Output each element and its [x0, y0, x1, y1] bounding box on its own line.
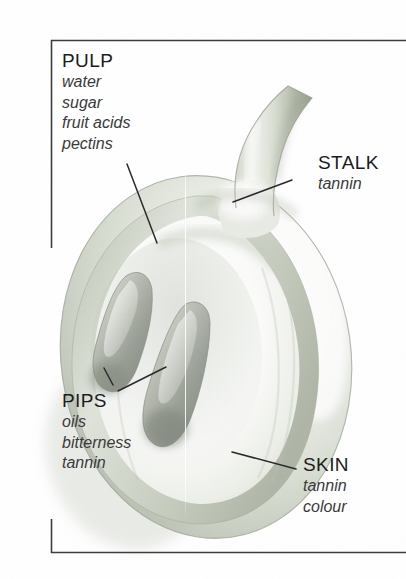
label-skin-line-1: colour	[303, 497, 349, 518]
label-stalk-title: STALK	[318, 152, 379, 174]
label-pulp-line-0: water	[62, 72, 130, 93]
label-pips-line-2: tannin	[62, 453, 131, 474]
label-pips-line-1: bitterness	[62, 433, 131, 454]
label-skin-title: SKIN	[303, 454, 349, 476]
label-layer: PULP water sugar fruit acids pectins STA…	[0, 0, 406, 579]
label-pulp-line-1: sugar	[62, 93, 130, 114]
label-stalk-line-0: tannin	[318, 174, 379, 195]
label-pips-line-0: oils	[62, 412, 131, 433]
label-skin: SKIN tannin colour	[303, 454, 349, 517]
label-pulp-line-3: pectins	[62, 134, 130, 155]
grape-anatomy-figure: PULP water sugar fruit acids pectins STA…	[0, 0, 406, 579]
label-skin-line-0: tannin	[303, 476, 349, 497]
label-pulp-title: PULP	[62, 50, 130, 72]
label-stalk: STALK tannin	[318, 152, 379, 195]
label-pips: PIPS oils bitterness tannin	[62, 390, 131, 474]
label-pulp: PULP water sugar fruit acids pectins	[62, 50, 130, 154]
label-pulp-line-2: fruit acids	[62, 113, 130, 134]
label-pips-title: PIPS	[62, 390, 131, 412]
